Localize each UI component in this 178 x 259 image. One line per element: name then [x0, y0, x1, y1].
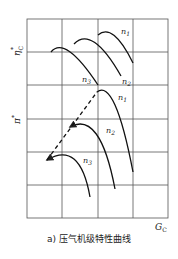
svg-text:ηC*: ηC*	[9, 46, 24, 56]
compressor-characteristic-chart: n1 n2 n3 n1 n2 n3 ηC* π* GC	[0, 0, 178, 259]
grid	[27, 19, 168, 218]
y-label-efficiency: ηC*	[9, 46, 24, 56]
svg-text:n1: n1	[121, 27, 130, 37]
svg-text:π*: π*	[10, 115, 22, 125]
svg-text:n2: n2	[122, 77, 131, 87]
svg-text:n3: n3	[83, 156, 92, 166]
curve-pi-n1	[97, 90, 133, 172]
figure-caption: a) 压气机级特性曲线	[0, 232, 178, 245]
y-label-pressure: π*	[10, 115, 22, 125]
pressure-curves	[47, 90, 133, 197]
curve-labels: n1 n2 n3 n1 n2 n3	[82, 27, 131, 166]
svg-text:n1: n1	[118, 93, 127, 103]
efficiency-curves	[51, 32, 133, 85]
svg-text:n3: n3	[82, 75, 91, 85]
curve-eff-n2	[74, 39, 121, 76]
surge-line	[47, 92, 97, 160]
svg-text:n2: n2	[106, 126, 115, 136]
